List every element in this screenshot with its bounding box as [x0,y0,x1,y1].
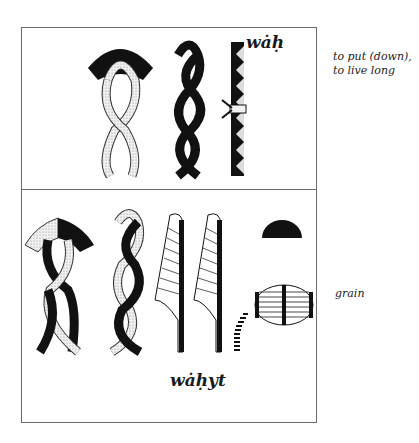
reed-leaf-glyph-1 [155,214,184,352]
gloss-wahyt: grain [335,287,364,301]
basket-rope-mixed-glyph [25,218,94,352]
transliteration-wah: wȧḥ [246,32,284,52]
gloss-line: to live long [333,64,412,78]
gloss-line: grain [335,287,364,301]
gloss-line: to put (down), [333,50,412,64]
bread-half-circle-glyph [262,220,302,238]
transliteration-wahyt: wȧḥyt [170,370,226,390]
twisted-rope-mixed-glyph [112,214,140,353]
twisted-rope-dark-glyph [178,45,201,176]
gloss-wah: to put (down), to live long [333,50,412,78]
grain-heap-glyph [255,285,313,325]
dotted-curve-glyph [234,313,248,351]
toothed-staff-glyph [222,42,246,176]
basket-rope-light-glyph [88,49,153,176]
reed-leaf-glyph-2 [194,214,222,352]
